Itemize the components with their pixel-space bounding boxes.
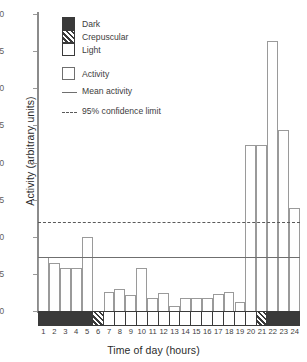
bar [147,298,158,311]
light-cycle-cell-light [224,312,235,325]
x-tick-label: 9 [125,327,136,339]
light-cycle-cell-light [137,312,148,325]
y-tick-mark [33,237,37,238]
bar [60,268,71,311]
bar [158,293,169,311]
x-tick-label: 12 [158,327,169,339]
x-tick-label: 23 [278,327,289,339]
light-cycle-cell-dark [72,312,83,325]
y-tick-label: 35 [0,46,4,56]
bar [104,292,115,311]
bar [136,268,147,311]
light-cycle-cell-light [246,312,257,325]
y-tick-mark [33,14,37,15]
x-tick-label: 22 [267,327,278,339]
confidence-limit-line [38,222,300,223]
x-axis-title: Time of day (hours) [0,344,307,356]
legend-label-activity: Activity [82,69,109,79]
bar [191,298,202,311]
light-cycle-band [38,311,300,326]
legend-swatch-light [62,43,75,56]
legend-swatch-dark [62,17,75,30]
bar [38,257,49,311]
y-tick-label: 40 [0,9,4,19]
x-tick-label: 2 [49,327,60,339]
light-cycle-cell-crepuscular [93,312,104,325]
y-tick-label: 0 [0,306,4,316]
light-cycle-cell-light [170,312,181,325]
x-tick-label: 8 [114,327,125,339]
x-tick-label: 24 [289,327,300,339]
legend-swatch-crepuscular [62,30,75,43]
legend-label-dark: Dark [82,19,100,29]
activity-chart: Activity (arbitrary units) 0510152025303… [0,0,307,362]
x-tick-label: 16 [202,327,213,339]
legend-cycle-swatches [62,17,75,56]
x-tick-label: 7 [104,327,115,339]
light-cycle-cell-light [202,312,213,325]
x-tick-label: 19 [235,327,246,339]
bar [289,208,300,311]
light-cycle-cell-light [180,312,191,325]
light-cycle-cell-light [104,312,115,325]
y-tick-label: 10 [0,232,4,242]
legend-label-light: Light [82,45,101,55]
x-tick-label: 3 [60,327,71,339]
legend-label-mean-activity: Mean activity [82,86,132,96]
light-cycle-cell-light [235,312,246,325]
x-axis-ticks: 123456789101112131415161718192021222324 [38,327,300,339]
light-cycle-cell-light [126,312,137,325]
x-tick-label: 14 [180,327,191,339]
y-tick-label: 15 [0,195,4,205]
legend-swatch-activity [62,67,75,80]
light-cycle-cell-light [148,312,159,325]
y-tick-mark [33,51,37,52]
light-cycle-cell-light [191,312,202,325]
x-tick-label: 20 [246,327,257,339]
light-cycle-cell-dark [50,312,61,325]
y-tick-mark [33,163,37,164]
mean-activity-line [38,257,300,258]
plot-area [38,14,300,311]
bar [82,237,93,311]
bar [256,145,267,311]
x-tick-label: 11 [147,327,158,339]
x-tick-label: 13 [169,327,180,339]
x-tick-label: 17 [213,327,224,339]
light-cycle-cell-dark [278,312,289,325]
x-tick-label: 18 [224,327,235,339]
legend-swatch-mean-activity [62,92,77,93]
y-tick-label: 30 [0,83,4,93]
y-tick-label: 25 [0,120,4,130]
bar [235,302,246,311]
x-tick-label: 4 [71,327,82,339]
bar [278,130,289,311]
bar [180,298,191,311]
y-tick-mark [33,311,37,312]
bar [71,268,82,311]
x-tick-label: 5 [82,327,93,339]
light-cycle-cell-dark [83,312,94,325]
x-tick-label: 15 [191,327,202,339]
y-axis-title: Activity (arbitrary units) [24,51,36,251]
y-tick-mark [33,274,37,275]
bar [125,295,136,311]
bar [267,41,278,311]
bar [224,292,235,311]
light-cycle-cell-crepuscular [257,312,268,325]
bar [245,145,256,311]
light-cycle-cell-light [159,312,170,325]
bar [114,289,125,311]
legend-label-confidence-limit: 95% confidence limit [82,106,161,116]
x-tick-label: 10 [136,327,147,339]
light-cycle-cell-dark [61,312,72,325]
bar [49,263,60,311]
y-tick-label: 5 [0,269,4,279]
x-tick-label: 21 [256,327,267,339]
bar [202,298,213,311]
light-cycle-cell-light [115,312,126,325]
y-tick-mark [33,125,37,126]
light-cycle-cell-dark [289,312,299,325]
x-tick-label: 1 [38,327,49,339]
bar [213,294,224,311]
